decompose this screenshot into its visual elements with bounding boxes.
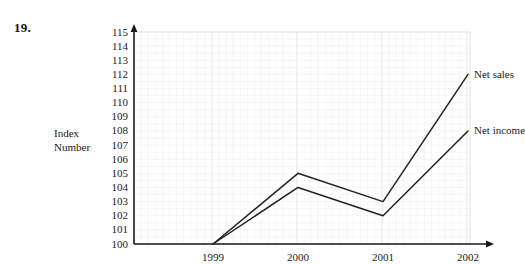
x-tick-label: 2000 [271, 252, 325, 263]
x-tick-label: 2001 [356, 252, 410, 263]
y-tick-label: 107 [94, 140, 128, 151]
y-tick-label: 108 [94, 125, 128, 136]
x-tick-label: 1999 [186, 252, 240, 263]
y-tick-label: 113 [94, 55, 128, 66]
chart-axes [131, 24, 494, 247]
series-label-net-income: Net income [474, 125, 525, 136]
y-tick-label: 109 [94, 111, 128, 122]
y-tick-label: 111 [94, 83, 128, 94]
y-tick-label: 102 [94, 210, 128, 221]
chart-gridlines [134, 32, 470, 244]
y-tick-label: 105 [94, 168, 128, 179]
y-tick-label: 112 [94, 69, 128, 80]
series-label-net-sales: Net sales [474, 69, 514, 80]
x-tick-label: 2002 [441, 252, 495, 263]
y-tick-label: 100 [94, 239, 128, 250]
y-tick-label: 110 [94, 97, 128, 108]
y-tick-label: 114 [94, 41, 128, 52]
y-tick-label: 101 [94, 224, 128, 235]
y-tick-label: 115 [94, 27, 128, 38]
question-number: 19. [14, 20, 31, 36]
y-tick-label: 106 [94, 154, 128, 165]
y-tick-label: 103 [94, 196, 128, 207]
y-tick-label: 104 [94, 182, 128, 193]
